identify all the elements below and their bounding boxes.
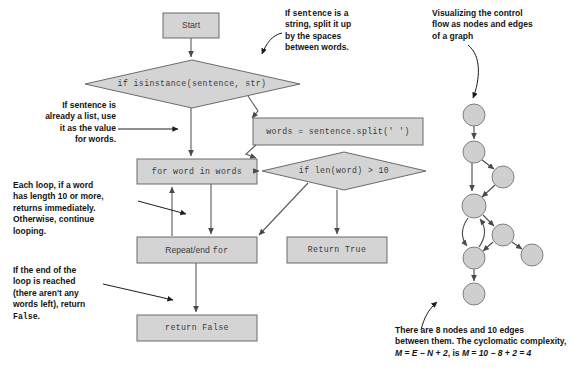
callout-end-note: If the end of the loop is reached (there… — [13, 265, 131, 322]
leader-loop-note — [138, 201, 186, 214]
graph-node — [521, 244, 543, 266]
callout-loop-note-line-1: has length 10 or more, — [13, 191, 138, 202]
flow-node-split-label: words = sentence.split(' ') — [253, 127, 423, 136]
flow-node-returntrue-label: Return True — [287, 245, 387, 254]
edge-split-forword — [246, 145, 256, 158]
flow-node-repeatend-label-sans: Repeat/end — [165, 245, 209, 255]
inline-code-sentence: sentence — [293, 9, 332, 18]
callout-end-note-line-4: False. — [13, 311, 131, 322]
edge-lencheck-repeatend — [259, 183, 308, 235]
leader-graph-note — [468, 45, 478, 98]
callout-list-note: If sentence is already a list, use it as… — [6, 100, 116, 146]
graph-node — [463, 104, 485, 126]
diagram-canvas: Start if isinstance(sentence, str) words… — [0, 0, 586, 371]
callout-loop-note-line-3: Otherwise, continue — [13, 214, 138, 225]
callout-complexity-note-line-1: between them. The cyclomatic complexity, — [395, 336, 585, 347]
inline-code-false: False — [13, 312, 38, 321]
graph-edge-g5-g7 — [483, 242, 493, 251]
callout-loop-note-line-2: returns immediately. — [13, 203, 138, 214]
callout-end-note-line-0: If the end of the — [13, 265, 131, 276]
callout-split-note-line-0: If sentence is a — [285, 8, 403, 19]
callout-graph-note-line-1: flow as nodes and edges — [432, 19, 580, 30]
callout-split-note: If sentence is a string, split it up by … — [285, 8, 403, 54]
flow-node-repeatend-label: Repeat/endfor — [137, 245, 257, 255]
flow-node-returnfalse-label: return False — [137, 323, 257, 332]
callout-list-note-line-1: already a list, use — [6, 111, 116, 122]
graph-node — [463, 283, 485, 305]
graph-node — [462, 194, 486, 218]
callout-list-note-line-3: for words. — [6, 134, 116, 145]
graph-edge-g4-g5 — [483, 215, 494, 226]
callout-loop-note-line-0: Each loop, if a word — [13, 180, 138, 191]
flow-node-forword-label: for word in words — [137, 167, 257, 176]
flow-node-start-label: Start — [163, 20, 219, 30]
callout-list-note-line-2: it as the value — [6, 123, 116, 134]
edge-isinstance-split — [248, 96, 258, 118]
callout-graph-note: Visualizing the control flow as nodes an… — [432, 8, 580, 42]
formula-result: M = 10 − 8 + 2 = 4 — [462, 348, 531, 358]
callout-complexity-note-line-2: M = E − N + 2, is M = 10 − 8 + 2 = 4 — [395, 348, 585, 359]
graph-node — [463, 247, 485, 269]
flow-node-isinstance-label: if isinstance(sentence, str) — [85, 79, 299, 88]
callout-graph-note-line-2: of a graph — [432, 31, 580, 42]
callout-end-note-line-2: (there aren't any — [13, 288, 131, 299]
callout-complexity-note: There are 8 nodes and 10 edges between t… — [395, 325, 585, 359]
callout-graph-note-line-0: Visualizing the control — [432, 8, 580, 19]
callout-split-note-line-2: by the spaces — [285, 31, 403, 42]
graph-node — [492, 166, 514, 188]
flow-node-repeatend-label-mono: for — [213, 246, 229, 255]
callout-loop-note: Each loop, if a word has length 10 or mo… — [13, 180, 138, 237]
callout-split-note-line-3: between words. — [285, 42, 403, 53]
callout-end-note-line-3: words left), return — [13, 299, 131, 310]
flow-node-lencheck-label: if len(word) > 10 — [262, 166, 426, 175]
callout-split-note-line-1: string, split it up — [285, 19, 403, 30]
graph-edge-g4-g7 — [463, 218, 468, 246]
callout-end-note-line-1: loop is reached — [13, 276, 131, 287]
formula-m-e-n: M = E − N + 2 — [395, 348, 448, 358]
callout-loop-note-line-4: looping. — [13, 226, 138, 237]
leader-split-note — [262, 33, 282, 54]
callout-list-note-line-0: If sentence is — [6, 100, 116, 111]
graph-edge-g5-g6 — [512, 242, 522, 249]
graph-edge-g3-g4 — [482, 185, 495, 197]
callout-complexity-note-line-0: There are 8 nodes and 10 edges — [395, 325, 585, 336]
graph-node — [492, 224, 514, 246]
graph-node — [463, 141, 485, 163]
graph-edge-g7-g4 — [479, 219, 484, 247]
graph-edge-g2-g3 — [482, 160, 494, 169]
control-flow-graph — [462, 104, 543, 305]
